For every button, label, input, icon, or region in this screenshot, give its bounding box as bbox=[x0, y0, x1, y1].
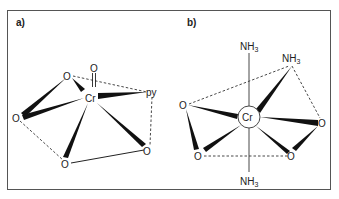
panel-a-atom-o-top: O bbox=[63, 71, 71, 82]
panel-b-wedge-cr-oleft bbox=[188, 105, 238, 119]
panel-b-metal: Cr bbox=[242, 112, 253, 123]
panel-b-atom-o-left: O bbox=[179, 100, 187, 111]
panel-b-wedge-oleft-obl bbox=[186, 109, 199, 150]
panel-b-wedge-cr-nh3 bbox=[256, 66, 292, 113]
panel-b-nh3-top: NH3 bbox=[240, 41, 258, 53]
panel-a-solid-edge bbox=[71, 150, 144, 163]
panel-a-wedge-cr-obottom bbox=[63, 103, 88, 158]
panel-b-nh3-right: NH3 bbox=[282, 53, 300, 65]
panel-b-nh3-bottom: NH3 bbox=[240, 176, 258, 188]
panel-b-label: b) bbox=[187, 17, 196, 28]
coordination-diagram: a) O O Cr py O O O b) bbox=[0, 0, 339, 199]
panel-a-wedge-cr-py bbox=[98, 92, 147, 99]
panel-b-wedge-cr-obr bbox=[256, 126, 290, 154]
panel-b-wedge-cr-oright bbox=[260, 117, 318, 126]
panel-b-atom-o-bottom-left: O bbox=[194, 151, 202, 162]
panel-b-atom-o-right: O bbox=[318, 118, 326, 129]
panel-b: b) Cr NH3 NH3 NH3 O O O O bbox=[179, 17, 326, 188]
panel-a-wedge-cr-otop bbox=[72, 78, 85, 92]
panel-a-wedge-cr-oright bbox=[97, 103, 146, 147]
panel-b-wedge-oright-obr bbox=[292, 126, 318, 151]
panel-a-atom-oxo: O bbox=[90, 63, 98, 74]
panel-a: a) O O Cr py O O O bbox=[12, 17, 157, 170]
panel-a-atom-o-bottom: O bbox=[61, 159, 69, 170]
panel-a-label: a) bbox=[16, 17, 25, 28]
panel-b-atom-o-bottom-right: O bbox=[287, 151, 295, 162]
panel-a-metal: Cr bbox=[85, 93, 96, 104]
panel-a-atom-o-right: O bbox=[143, 146, 151, 157]
panel-a-ligand-py: py bbox=[146, 87, 157, 98]
panel-b-wedge-cr-obl bbox=[203, 125, 241, 152]
panel-a-dashed-edges bbox=[20, 76, 152, 160]
panel-a-atom-o-left: O bbox=[12, 113, 20, 124]
